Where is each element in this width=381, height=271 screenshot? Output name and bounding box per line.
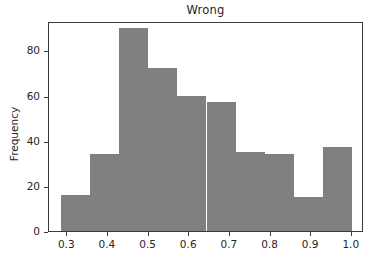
y-tick-label: 80 (0, 44, 40, 56)
y-tick-label: 0 (0, 225, 40, 237)
x-tick-mark (270, 232, 271, 236)
chart-title: Wrong (48, 3, 363, 17)
y-tick-mark (44, 51, 48, 52)
y-tick-mark (44, 187, 48, 188)
y-tick-mark (44, 232, 48, 233)
x-tick-label: 0.5 (128, 238, 168, 250)
x-tick-mark (229, 232, 230, 236)
x-tick-mark (148, 232, 149, 236)
histogram-bar (61, 195, 90, 231)
x-tick-label: 0.3 (46, 238, 86, 250)
y-tick-mark (44, 142, 48, 143)
x-tick-mark (107, 232, 108, 236)
histogram-bar (265, 154, 294, 231)
histogram-bar (148, 68, 177, 231)
x-tick-mark (310, 232, 311, 236)
x-tick-label: 0.8 (250, 238, 290, 250)
histogram-bar (323, 147, 352, 231)
histogram-bar (236, 152, 265, 231)
histogram-bar (90, 154, 119, 231)
y-tick-label: 20 (0, 180, 40, 192)
x-tick-label: 1.0 (331, 238, 371, 250)
histogram-bar (177, 96, 206, 231)
y-tick-mark (44, 97, 48, 98)
histogram-bar (294, 197, 323, 231)
x-tick-label: 0.7 (209, 238, 249, 250)
x-tick-label: 0.9 (290, 238, 330, 250)
histogram-bar (207, 102, 236, 231)
bars-layer (49, 23, 362, 231)
x-tick-label: 0.4 (87, 238, 127, 250)
plot-area (48, 22, 363, 232)
y-tick-label: 40 (0, 135, 40, 147)
x-tick-mark (188, 232, 189, 236)
x-tick-label: 0.6 (168, 238, 208, 250)
x-tick-mark (351, 232, 352, 236)
histogram-bar (119, 28, 148, 231)
histogram-figure: Wrong Frequency 0.30.40.50.60.70.80.91.0… (0, 0, 381, 271)
y-tick-label: 60 (0, 90, 40, 102)
x-tick-mark (66, 232, 67, 236)
